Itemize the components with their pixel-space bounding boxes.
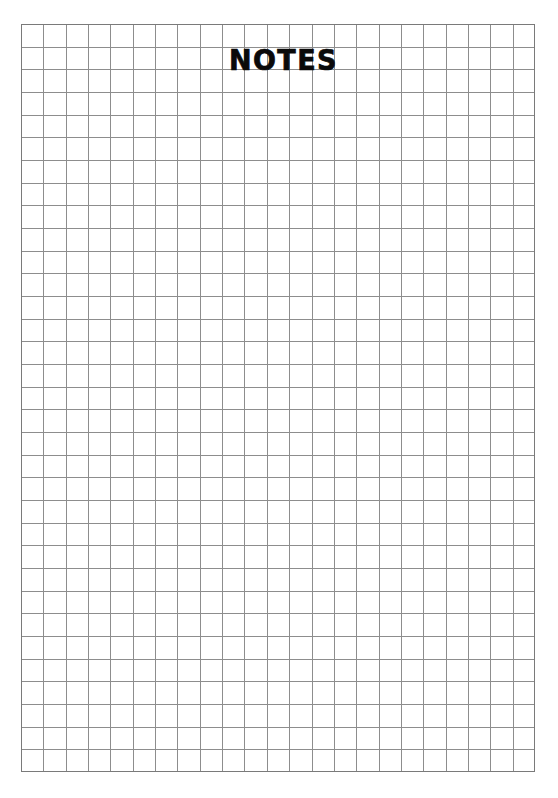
grid-canvas xyxy=(21,24,535,772)
notes-page: NOTES xyxy=(0,0,558,798)
page-title: NOTES xyxy=(229,45,329,78)
grid-sheet[interactable] xyxy=(21,24,535,772)
grid-horizontal-lines xyxy=(21,48,535,750)
